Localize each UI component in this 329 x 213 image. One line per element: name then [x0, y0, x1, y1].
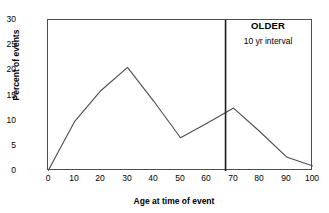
- y-tick-label-10: 10: [0, 116, 16, 125]
- x-tick-label-40: 40: [140, 174, 166, 183]
- y-tick-label-5: 5: [0, 141, 16, 150]
- data-line-percent-of-events: [48, 67, 313, 171]
- older-annotation: OLDER 10 yr interval: [226, 20, 310, 46]
- y-tick-label-0: 0: [0, 166, 16, 175]
- x-tick-label-80: 80: [246, 174, 272, 183]
- y-tick-label-20: 20: [0, 65, 16, 74]
- y-tick-label-15: 15: [0, 91, 16, 100]
- x-tick-label-10: 10: [61, 174, 87, 183]
- x-tick-label-60: 60: [193, 174, 219, 183]
- older-annotation-secondary: 10 yr interval: [226, 36, 310, 46]
- x-tick-label-20: 20: [87, 174, 113, 183]
- x-tick-label-70: 70: [220, 174, 246, 183]
- y-tick-label-25: 25: [0, 40, 16, 49]
- y-tick-label-30: 30: [0, 15, 16, 24]
- x-tick-label-0: 0: [35, 174, 61, 183]
- x-axis-title: Age at time of event: [36, 196, 312, 206]
- x-tick-label-90: 90: [273, 174, 299, 183]
- x-tick-label-50: 50: [167, 174, 193, 183]
- chart-figure: Percent of events 30 25 20 15 10 5 0 0 1…: [0, 0, 329, 213]
- x-tick-label-30: 30: [114, 174, 140, 183]
- x-tick-label-100: 100: [299, 174, 325, 183]
- older-annotation-primary: OLDER: [226, 20, 310, 31]
